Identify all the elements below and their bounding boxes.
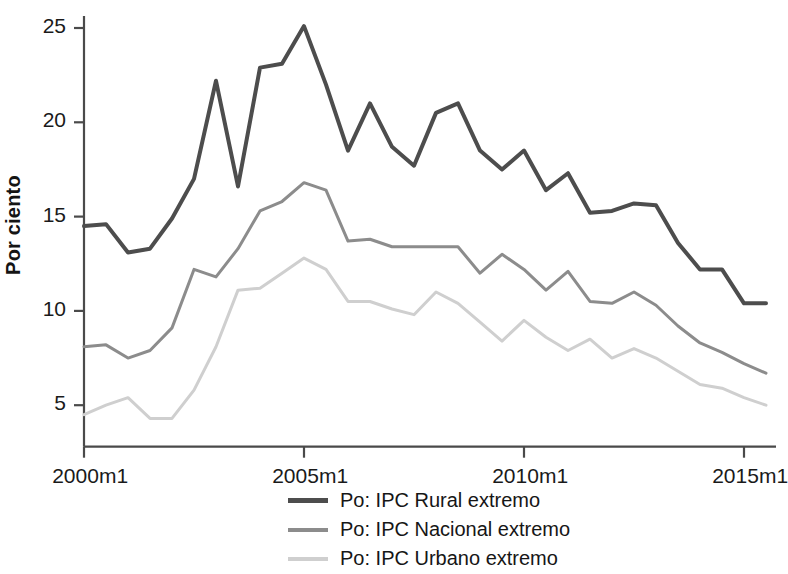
legend-item-rural[interactable]: Po: IPC Rural extremo — [288, 486, 708, 515]
y-tick-label: 5 — [20, 391, 66, 415]
x-tick-label: 2010m1 — [492, 464, 568, 488]
legend-item-nacional[interactable]: Po: IPC Nacional extremo — [288, 515, 708, 544]
y-tick-label: 10 — [20, 297, 66, 321]
legend-swatch-rural — [288, 498, 328, 503]
y-tick-label: 20 — [20, 108, 66, 132]
series-line — [84, 258, 766, 418]
legend-swatch-nacional — [288, 528, 328, 532]
y-tick-label: 15 — [20, 203, 66, 227]
plot-area — [0, 0, 778, 470]
chart-canvas — [0, 0, 778, 470]
legend-label-nacional: Po: IPC Nacional extremo — [340, 518, 570, 541]
series-line — [84, 183, 766, 373]
x-tick-label: 2005m1 — [272, 464, 348, 488]
y-tick-label: 25 — [20, 14, 66, 38]
series-line — [84, 26, 766, 303]
legend-label-rural: Po: IPC Rural extremo — [340, 489, 540, 512]
legend-item-urbano[interactable]: Po: IPC Urbano extremo — [288, 544, 708, 573]
legend-label-urbano: Po: IPC Urbano extremo — [340, 547, 558, 570]
legend-swatch-urbano — [288, 557, 328, 561]
x-tick-label: 2015m1 — [712, 464, 788, 488]
chart-legend: Po: IPC Rural extremo Po: IPC Nacional e… — [288, 486, 708, 573]
x-tick-label: 2000m1 — [52, 464, 128, 488]
